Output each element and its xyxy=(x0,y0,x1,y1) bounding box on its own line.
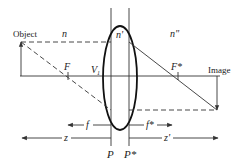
thick-lens-diagram: Object Image n n' n" F F* V1 f f* z z' P… xyxy=(0,0,243,163)
vertex-label: V1 xyxy=(91,64,100,76)
medium-left-label: n xyxy=(62,28,67,39)
focal-point-front-label: F xyxy=(63,61,71,72)
focal-length-back-label: f* xyxy=(146,119,154,130)
medium-lens-label: n' xyxy=(116,29,124,40)
object-label: Object xyxy=(13,29,37,39)
focal-point-back-label: F* xyxy=(170,61,182,72)
image-distance-label: z' xyxy=(163,132,171,143)
object-distance-label: z xyxy=(63,132,68,143)
medium-right-label: n" xyxy=(170,28,180,39)
lens xyxy=(103,26,137,130)
principal-point-front-label: P xyxy=(106,148,114,160)
image-label: Image xyxy=(208,65,231,75)
principal-point-back-label: P* xyxy=(123,148,137,160)
